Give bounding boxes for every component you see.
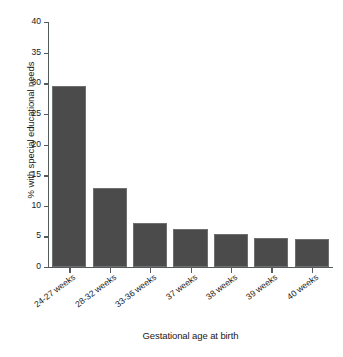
y-tick-mark	[44, 236, 48, 237]
y-tick: 35	[0, 53, 48, 54]
y-tick-mark	[44, 175, 48, 176]
y-tick: 40	[0, 22, 48, 23]
bar-chart-figure: % with special educational needs 0510152…	[0, 0, 343, 357]
x-axis-title: Gestational age at birth	[49, 330, 332, 341]
bar	[133, 223, 167, 267]
y-tick-label: 30	[31, 77, 41, 88]
y-tick-label: 40	[31, 16, 41, 27]
bar	[254, 238, 288, 267]
y-tick: 25	[0, 114, 48, 115]
y-tick-mark	[44, 145, 48, 146]
y-tick-mark	[44, 53, 48, 54]
y-tick: 5	[0, 236, 48, 237]
y-tick: 20	[0, 145, 48, 146]
y-tick-label: 25	[31, 108, 41, 119]
y-tick: 10	[0, 206, 48, 207]
y-axis-title: % with special educational needs	[22, 0, 40, 260]
y-tick-label: 5	[36, 230, 41, 241]
bar	[214, 234, 248, 267]
y-tick-mark	[44, 206, 48, 207]
y-tick-mark	[44, 114, 48, 115]
bar	[295, 239, 329, 267]
y-tick: 30	[0, 83, 48, 84]
y-tick-mark	[44, 22, 48, 23]
y-tick-label: 15	[31, 169, 41, 180]
y-tick-mark	[44, 267, 48, 268]
y-tick-label: 10	[31, 200, 41, 211]
y-tick-label: 20	[31, 139, 41, 150]
bar	[93, 188, 127, 267]
y-axis-line	[48, 22, 49, 268]
y-tick-label: 35	[31, 47, 41, 58]
y-tick: 15	[0, 175, 48, 176]
bar	[52, 86, 86, 267]
bar	[173, 229, 207, 267]
y-tick-mark	[44, 83, 48, 84]
y-tick: 0	[0, 267, 48, 268]
y-tick-label: 0	[36, 261, 41, 272]
